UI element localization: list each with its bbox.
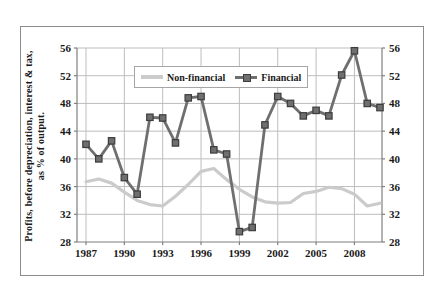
x-tick-label: 2002 <box>267 247 290 259</box>
marker-financial <box>96 156 102 162</box>
legend-financial-line-sample <box>235 76 257 79</box>
marker-financial <box>211 147 217 153</box>
marker-financial <box>185 95 191 101</box>
marker-financial <box>249 224 255 230</box>
y-tick-label-left: 36 <box>60 181 72 193</box>
y-tick-label-right: 44 <box>389 125 401 137</box>
y-tick-label-left: 44 <box>60 125 72 137</box>
chart-figure: Profits, before depreciation, interest &… <box>0 0 437 287</box>
plot-area: 2828323236364040444448485252565619871990… <box>0 0 437 287</box>
x-tick-label: 1990 <box>113 247 136 259</box>
y-tick-label-right: 56 <box>389 42 401 54</box>
marker-financial <box>134 191 140 197</box>
marker-financial <box>377 104 383 110</box>
y-tick-label-left: 40 <box>60 153 72 165</box>
y-tick-label-left: 32 <box>60 208 72 220</box>
x-tick-label: 1999 <box>228 247 251 259</box>
y-tick-label-left: 52 <box>60 70 72 82</box>
marker-financial <box>108 138 114 144</box>
marker-financial <box>300 113 306 119</box>
y-tick-label-right: 32 <box>389 208 401 220</box>
marker-financial <box>147 114 153 120</box>
legend-financial-label: Financial <box>261 72 301 83</box>
marker-financial <box>262 122 268 128</box>
x-tick-label: 1987 <box>75 247 98 259</box>
y-tick-label-right: 48 <box>389 97 401 109</box>
marker-financial <box>326 113 332 119</box>
marker-financial <box>351 48 357 54</box>
y-tick-label-left: 56 <box>60 42 72 54</box>
marker-financial <box>364 100 370 106</box>
marker-financial <box>338 72 344 78</box>
x-tick-label: 2005 <box>305 247 328 259</box>
y-tick-label-left: 48 <box>60 97 72 109</box>
marker-financial <box>275 93 281 99</box>
y-tick-label-right: 52 <box>389 70 401 82</box>
marker-financial <box>198 93 204 99</box>
legend-nonfinancial-line-sample <box>141 75 163 79</box>
marker-financial <box>287 100 293 106</box>
marker-financial <box>313 107 319 113</box>
y-tick-label-left: 28 <box>60 236 72 248</box>
y-tick-label-right: 40 <box>389 153 401 165</box>
marker-financial <box>159 115 165 121</box>
x-tick-label: 2008 <box>343 247 366 259</box>
x-tick-label: 1993 <box>152 247 175 259</box>
legend-financial-marker-icon <box>243 74 251 82</box>
marker-financial <box>83 141 89 147</box>
marker-financial <box>172 140 178 146</box>
y-tick-label-right: 36 <box>389 181 401 193</box>
marker-financial <box>236 228 242 234</box>
marker-financial <box>121 174 127 180</box>
legend-nonfinancial-label: Non-financial <box>167 72 225 83</box>
y-tick-label-right: 28 <box>389 236 401 248</box>
marker-financial <box>223 151 229 157</box>
x-tick-label: 1996 <box>190 247 213 259</box>
legend: Non-financial Financial <box>134 66 308 88</box>
